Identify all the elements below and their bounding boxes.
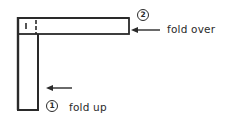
fold-diagram: 2 fold over 1 fold up bbox=[0, 0, 230, 120]
arrow-left-icon bbox=[46, 85, 72, 91]
step-label-fold-up: fold up bbox=[69, 101, 107, 113]
step-number-badge: 1 bbox=[46, 100, 58, 112]
arrow-left-icon bbox=[131, 27, 160, 33]
fold-diagram-canvas bbox=[0, 0, 230, 120]
horizontal-strip bbox=[18, 18, 129, 34]
step-number-badge: 2 bbox=[137, 9, 149, 21]
step-label-fold-over: fold over bbox=[167, 23, 215, 35]
